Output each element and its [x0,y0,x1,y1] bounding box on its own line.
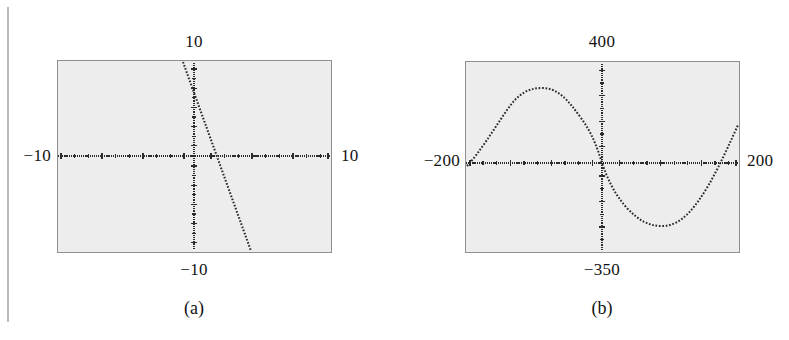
axis-label-a-top: 10 [134,33,254,50]
panel-caption-a: (a) [134,299,254,317]
graph-a-plot [58,61,331,252]
y-axis-b [599,64,605,250]
axis-label-a-right: 10 [341,147,386,164]
page-margin-rule [7,7,9,322]
graph-screen-a [57,60,332,253]
axis-label-b-left: −200 [405,152,460,169]
graph-b-plot [466,62,739,252]
graph-screen-b [465,61,740,253]
axis-label-a-bottom: −10 [134,261,254,278]
panel-caption-b: (b) [542,299,662,317]
axis-label-b-right: 200 [747,152,789,169]
axis-label-b-top: 400 [542,33,662,50]
axis-label-a-left: −10 [6,147,51,164]
axis-label-b-bottom: −350 [542,261,662,278]
